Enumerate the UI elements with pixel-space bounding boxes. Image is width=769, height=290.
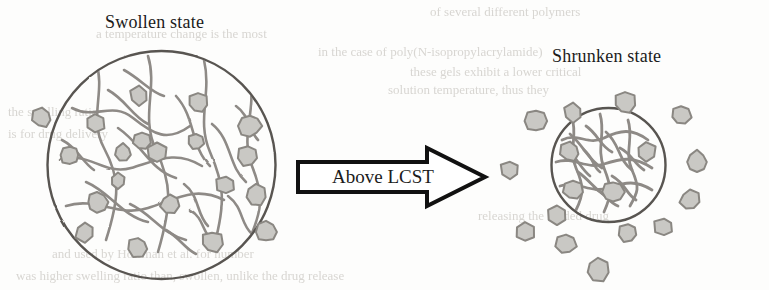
drug-molecule <box>189 134 204 149</box>
drug-molecule <box>112 173 125 190</box>
polymer-strand <box>60 157 202 169</box>
drug-molecule <box>602 182 625 201</box>
drug-molecule <box>87 114 104 132</box>
drug-molecule <box>130 86 146 106</box>
drug-molecule <box>588 258 609 282</box>
drug-molecule <box>115 143 131 160</box>
drug-molecule <box>564 103 580 123</box>
drug-molecule <box>247 184 266 205</box>
drug-molecule <box>238 146 257 166</box>
diagram-drawing-layer <box>0 0 769 290</box>
drug-molecules-outside-swollen <box>32 108 50 127</box>
shrunken-hydrogel-particle <box>552 108 666 222</box>
drug-molecule <box>203 233 223 253</box>
polymer-strand <box>584 150 600 172</box>
arrow-label-above-lcst: Above LCST <box>332 166 434 188</box>
hydrogel-lcst-transition-figure: of several different polymersa temperatu… <box>0 0 769 290</box>
drug-molecule <box>687 150 707 172</box>
drug-molecule <box>654 219 672 235</box>
drug-molecule <box>548 206 565 226</box>
drug-molecule <box>517 222 534 241</box>
drug-molecule <box>128 238 147 257</box>
polymer-strand <box>204 60 222 246</box>
shrunken-state-label: Shrunken state <box>552 46 661 67</box>
drug-molecule <box>619 224 636 242</box>
drug-molecule <box>61 147 79 164</box>
polymer-strand <box>228 196 252 234</box>
drug-molecule <box>672 106 691 123</box>
drug-molecule <box>190 93 208 112</box>
drug-molecule <box>256 221 277 241</box>
drug-molecule <box>639 142 656 162</box>
drug-molecule <box>563 181 583 199</box>
drug-molecule <box>680 190 700 209</box>
drug-molecule <box>238 116 262 137</box>
polymer-strand <box>96 62 116 240</box>
polymer-strand <box>166 230 196 254</box>
swollen-hydrogel-particle <box>48 51 277 279</box>
drug-molecule <box>616 92 635 113</box>
drug-molecule <box>525 111 548 131</box>
drug-molecule <box>555 235 577 253</box>
polymer-strand <box>184 184 208 226</box>
drug-molecule <box>75 223 92 243</box>
drug-molecule <box>560 142 578 161</box>
drug-molecule <box>148 143 167 162</box>
drug-molecule <box>32 108 50 127</box>
drug-molecule <box>160 195 179 214</box>
swollen-state-label: Swollen state <box>105 12 204 33</box>
drug-molecule <box>216 177 234 193</box>
drug-molecule <box>501 162 518 179</box>
